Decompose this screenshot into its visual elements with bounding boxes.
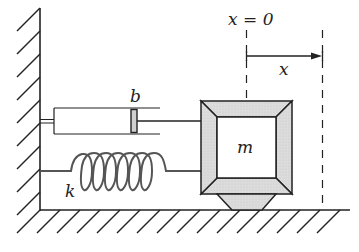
mass-foot xyxy=(217,194,276,210)
mass-spring-damper-diagram: x = 0 x b m k xyxy=(0,0,359,252)
ground xyxy=(17,210,350,233)
displacement-label: x xyxy=(279,59,289,79)
spring-label: k xyxy=(65,181,75,201)
ground-hatching xyxy=(17,210,340,233)
damper xyxy=(40,108,201,134)
origin-label: x = 0 xyxy=(228,9,274,29)
origin-label-text: x = 0 xyxy=(228,9,274,29)
wall xyxy=(17,8,40,215)
damper-label: b xyxy=(130,86,141,106)
mass-label: m xyxy=(237,137,253,157)
damper-piston xyxy=(131,110,137,133)
wall-hatching xyxy=(17,8,40,215)
